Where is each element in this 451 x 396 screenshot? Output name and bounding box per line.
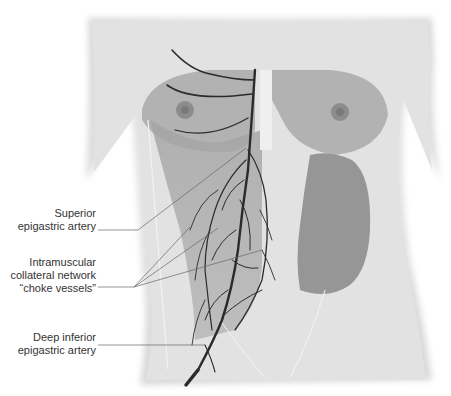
linea-alba [260, 70, 272, 150]
label-choke-vessels: Intramuscular collateral network “choke … [10, 256, 96, 295]
label-deep-inferior-epigastric-artery: Deep inferior epigastric artery [18, 331, 96, 357]
right-rectus [298, 153, 371, 294]
anatomy-figure: Superior epigastric artery Intramuscular… [0, 0, 451, 396]
label-superior-epigastric-artery: Superior epigastric artery [18, 207, 96, 233]
